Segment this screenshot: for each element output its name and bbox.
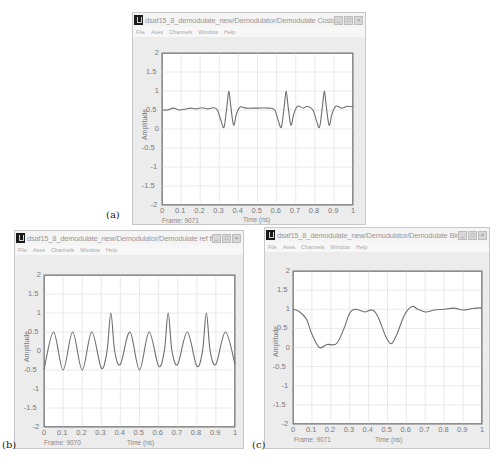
scope-window-costas[interactable]: dsaf15_8_demodulate_new/Demodulator/Demo…: [132, 12, 366, 225]
menu-window[interactable]: Window: [330, 244, 350, 250]
plot-svg: [162, 53, 353, 205]
y-tick-label: -0.5: [273, 362, 286, 371]
y-tick-label: -1.5: [24, 403, 37, 412]
window-title: dsaf15_8_demodulate_new/Demodulator/Demo…: [27, 234, 212, 243]
menu-help[interactable]: Help: [106, 247, 117, 253]
minimize-button[interactable]: _: [212, 234, 221, 243]
x-tick-label: 0.3: [344, 425, 354, 434]
scope-window-binary[interactable]: dsaf15_8_demodulate_new/Demodulator/Demo…: [264, 227, 490, 449]
menu-window[interactable]: Window: [80, 247, 100, 253]
close-button[interactable]: ×: [232, 234, 241, 243]
title-bar[interactable]: dsaf15_8_demodulate_new/Demodulator/Demo…: [133, 13, 365, 27]
x-tick-label: 0: [42, 428, 46, 437]
x-tick-label: 0.2: [194, 206, 204, 215]
menu-file[interactable]: File: [268, 244, 277, 250]
plot-svg: [44, 275, 235, 427]
x-tick-label: 0.1: [57, 428, 67, 437]
x-tick-label: 0.8: [309, 206, 319, 215]
menu-window[interactable]: Window: [198, 29, 218, 35]
x-axis-label: Time (ns): [243, 216, 270, 223]
close-button[interactable]: ×: [478, 231, 487, 240]
x-tick-label: 0.6: [400, 425, 410, 434]
menu-channels[interactable]: Channels: [169, 29, 192, 35]
frame-counter: Frame: 9071: [294, 436, 331, 443]
menu-file[interactable]: File: [18, 247, 27, 253]
menu-channels[interactable]: Channels: [301, 244, 324, 250]
plot-svg: [293, 271, 482, 424]
maximize-button[interactable]: □: [468, 231, 477, 240]
menu-bar: File Axes Channels Window Help: [15, 245, 243, 255]
y-tick-label: 0: [155, 124, 159, 133]
x-tick-label: 1: [480, 425, 484, 434]
x-tick-label: 0.9: [328, 206, 338, 215]
minimize-button[interactable]: _: [458, 231, 467, 240]
menu-bar: File Axes Channels Window Help: [265, 242, 489, 252]
frame-counter: Frame: 9071: [162, 217, 199, 224]
y-tick-label: -1: [150, 162, 157, 171]
title-bar[interactable]: dsaf15_8_demodulate_new/Demodulator/Demo…: [265, 228, 489, 242]
y-tick-label: 0.5: [277, 323, 287, 332]
y-tick-label: 2: [37, 270, 41, 279]
x-tick-label: 0.3: [95, 428, 105, 437]
x-tick-label: 0.7: [172, 428, 182, 437]
menu-help[interactable]: Help: [224, 29, 235, 35]
x-tick-label: 0.5: [382, 425, 392, 434]
y-tick-label: -0.5: [24, 365, 37, 374]
matlab-app-icon: [134, 15, 143, 25]
x-tick-label: 0.4: [363, 425, 373, 434]
menu-axes[interactable]: Axes: [151, 29, 163, 35]
matlab-app-icon: [16, 233, 25, 243]
x-tick-label: 1: [351, 206, 355, 215]
menu-axes[interactable]: Axes: [283, 244, 295, 250]
x-tick-label: 0.2: [76, 428, 86, 437]
window-title: dsaf15_8_demodulate_new/Demodulator/Demo…: [145, 16, 334, 25]
y-tick-label: 0: [286, 343, 290, 352]
y-tick-label: -2: [32, 422, 39, 431]
title-bar[interactable]: dsaf15_8_demodulate_new/Demodulator/Demo…: [15, 231, 243, 245]
y-tick-label: 0: [37, 346, 41, 355]
x-tick-label: 0.9: [457, 425, 467, 434]
y-tick-label: -0.5: [142, 143, 155, 152]
x-tick-label: 0.7: [290, 206, 300, 215]
x-tick-label: 0.2: [325, 425, 335, 434]
y-tick-label: 1.5: [146, 67, 156, 76]
y-tick-label: -2: [281, 419, 288, 428]
menu-axes[interactable]: Axes: [33, 247, 45, 253]
maximize-button[interactable]: □: [344, 16, 353, 25]
y-tick-label: 1.5: [277, 285, 287, 294]
x-tick-label: 0: [160, 206, 164, 215]
menu-file[interactable]: File: [136, 29, 145, 35]
caption-a: (a): [106, 209, 120, 220]
x-tick-label: 0.5: [252, 206, 262, 215]
menu-bar: File Axes Channels Window Help: [133, 27, 365, 37]
x-tick-label: 0: [291, 425, 295, 434]
x-tick-label: 0.4: [232, 206, 242, 215]
minimize-button[interactable]: _: [334, 16, 343, 25]
y-tick-label: -1: [32, 384, 39, 393]
maximize-button[interactable]: □: [222, 234, 231, 243]
close-button[interactable]: ×: [354, 16, 363, 25]
x-tick-label: 0.1: [306, 425, 316, 434]
menu-help[interactable]: Help: [356, 244, 367, 250]
y-tick-label: 2: [155, 48, 159, 57]
x-tick-label: 0.6: [153, 428, 163, 437]
x-tick-label: 0.5: [134, 428, 144, 437]
caption-c: (c): [252, 439, 265, 450]
frame-counter: Frame: 9070: [44, 439, 81, 446]
y-tick-label: 2: [286, 266, 290, 275]
y-tick-label: 1: [155, 86, 159, 95]
x-tick-label: 0.7: [419, 425, 429, 434]
x-tick-label: 0.1: [175, 206, 185, 215]
x-tick-label: 0.6: [271, 206, 281, 215]
scope-window-ref-filter[interactable]: dsaf15_8_demodulate_new/Demodulator/Demo…: [14, 230, 244, 449]
caption-b: (b): [2, 439, 16, 450]
y-tick-label: -2: [150, 200, 157, 209]
x-tick-label: 0.8: [191, 428, 201, 437]
window-title: dsaf15_8_demodulate_new/Demodulator/Demo…: [277, 231, 458, 240]
y-tick-label: 1: [286, 304, 290, 313]
menu-channels[interactable]: Channels: [51, 247, 74, 253]
x-tick-label: 0.3: [213, 206, 223, 215]
y-tick-label: 0.5: [146, 105, 156, 114]
y-tick-label: -1.5: [142, 181, 155, 190]
x-axis-label: Time (ns): [127, 439, 154, 446]
